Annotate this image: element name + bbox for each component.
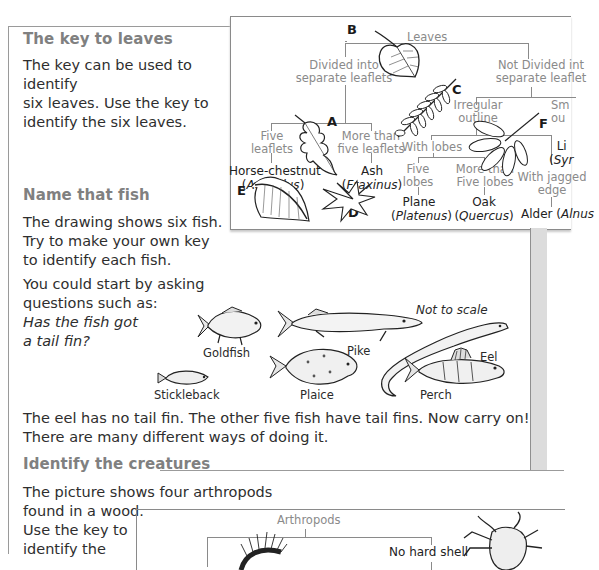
leaves-heading: The key to leaves [23,30,173,48]
leaf-f-icon [467,111,541,177]
result-plane: Plane(Platenus) [391,195,447,223]
fish-followup: The eel has no tail fin. The other five … [23,409,543,447]
not-to-scale-note: Not to scale [416,303,488,317]
fish-body: The drawing shows six fish. Try to make … [23,213,223,270]
result-lilac: Li(Syr [549,139,579,167]
woodlouse-tick-icon [462,512,542,570]
leaf-b-icon [371,29,431,81]
leaf-key-panel: Leaves Divided intoseparate leaflets Not… [230,16,571,230]
key-no-hard-shell: No hard shell [389,545,468,559]
leaf-c-icon [394,77,458,139]
fish-label-plaice: Plaice [300,388,334,402]
centipede-icon [235,530,287,570]
key-smooth-outline: Smou [551,99,581,125]
leaf-letter-b: B [347,22,357,37]
leaf-letter-e: E [237,183,246,198]
arthropod-key-panel: Arthropods No hard shell [136,509,565,570]
cropped-previous-text [0,0,564,8]
key-root-arthropods: Arthropods [277,514,341,527]
fish-heading: Name that fish [23,186,150,204]
result-alder: Alder (Alnus [521,207,599,221]
result-oak: Oak(Quercus) [453,195,515,223]
leaf-e-icon [249,173,311,223]
creatures-heading: Identify the creatures [23,455,210,473]
goldfish-icon [196,305,266,347]
section-divider [160,470,564,471]
page-top-rule [8,26,230,27]
leaves-body: The key can be used to identify six leav… [23,56,233,132]
key-not-divided: Not Divided intseparate leaflet [486,59,596,85]
leaves-line-1: The key can be used to identify [23,57,192,92]
fish-label-stickleback: Stickleback [154,388,220,402]
fish-label-perch: Perch [420,388,452,402]
perch-icon [403,348,509,390]
fish-prompt: You could start by asking questions such… [23,275,223,351]
plaice-icon [268,342,362,390]
leaves-line-2: six leaves. Use the key to [23,95,209,111]
key-with-lobes: With lobes [396,141,468,154]
leaf-d-icon [319,179,377,223]
stickleback-icon [156,367,212,389]
page-left-rule [8,26,9,554]
fish-label-goldfish: Goldfish [203,346,250,360]
leaves-line-3: identify the six leaves. [23,114,187,130]
leaf-a-icon [293,113,341,177]
